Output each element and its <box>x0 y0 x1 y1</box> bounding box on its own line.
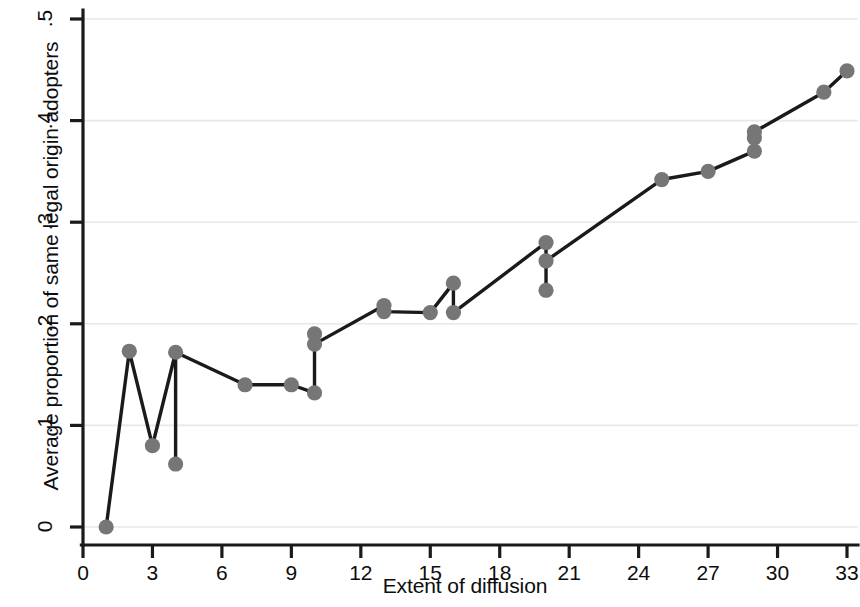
axis-lines <box>81 10 858 545</box>
chart-figure: 0.1.2.3.4.5 03691215182124273033 Average… <box>0 0 860 607</box>
gridlines <box>83 19 858 527</box>
series-line <box>106 71 847 527</box>
y-axis-title: Average proportion of same legal origin … <box>34 0 68 546</box>
x-axis-title: Extent of diffusion <box>83 574 847 598</box>
series-markers <box>99 63 855 534</box>
chart-plot-area <box>0 0 860 607</box>
